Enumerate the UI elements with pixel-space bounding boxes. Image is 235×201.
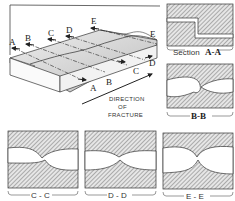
section-b-b-panel [167, 64, 233, 116]
label-b-back: B [25, 33, 31, 43]
section-c-c-panel [8, 131, 78, 195]
label-e-back: E [91, 16, 97, 26]
section-a-a-panel [167, 4, 233, 50]
section-a-a-prefix: Section [173, 48, 200, 57]
label-c-front: C [133, 66, 139, 76]
label-e-front: E [150, 29, 156, 39]
label-a-front: A [90, 83, 97, 93]
frame-top-line [10, 5, 160, 6]
fracture-block [10, 28, 157, 92]
direction-caption-3: FRACTURE [108, 112, 143, 118]
direction-caption-2: OF [118, 104, 127, 110]
label-b-front: B [106, 77, 112, 87]
section-d-d-panel [85, 131, 156, 195]
label-a-back: A [9, 37, 16, 47]
section-b-b-label: B-B [191, 111, 206, 121]
section-e-e-label: E - E [186, 192, 204, 201]
label-d-front: D [149, 58, 156, 68]
fracture-diagram: A B C D E A B C D E DIRECTION OF FRACTUR… [0, 0, 235, 201]
section-c-c-label: C - C [31, 191, 50, 200]
section-e-e-panel [163, 133, 233, 196]
direction-caption-1: DIRECTION [109, 96, 145, 102]
label-d-back: D [66, 25, 73, 35]
label-c-back: C [48, 28, 54, 38]
section-a-a-label: A-A [205, 47, 221, 57]
section-d-d-label: D - D [108, 191, 127, 200]
